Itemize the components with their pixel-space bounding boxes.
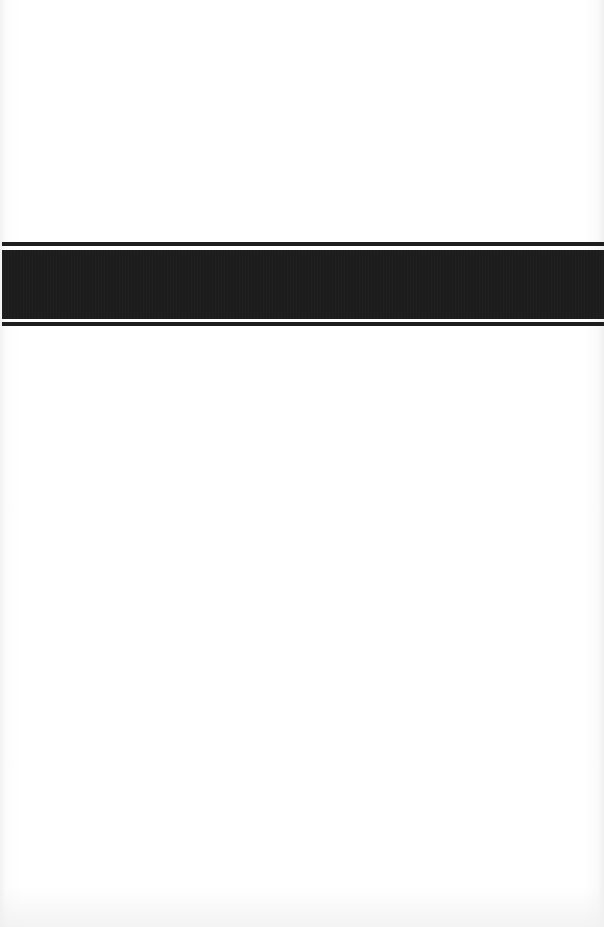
- bottom-rule-line: [2, 322, 604, 326]
- scanned-page: [0, 0, 604, 927]
- decorative-band-group: [2, 240, 604, 331]
- black-title-band: [2, 250, 604, 319]
- top-rule-line: [2, 242, 604, 246]
